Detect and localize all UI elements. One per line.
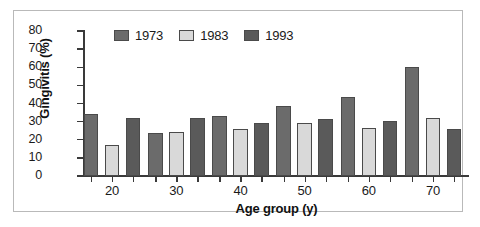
x-axis-tick-label: 50 [285,183,325,198]
x-axis-tick [454,177,455,182]
y-axis-tick [77,85,83,86]
y-axis-tick-label: 0 [2,169,42,182]
x-axis-tick [219,177,220,182]
x-axis-tick [369,177,370,182]
bar-1983-20 [105,145,120,176]
y-axis-tick [77,139,83,140]
x-axis-tick-label: 70 [413,183,453,198]
bar-1993-70 [447,129,462,176]
y-axis-tick [77,48,83,49]
legend-label: 1993 [265,28,293,43]
x-axis-tick-label: 30 [156,183,196,198]
x-axis-tick [284,177,285,182]
x-axis-tick [390,177,391,182]
y-axis-tick [77,175,83,176]
bar-1973-50 [276,106,291,176]
y-axis-tick-label: 10 [2,151,42,164]
bar-1973-40 [212,116,227,176]
x-axis-tick [133,177,134,182]
x-axis-tick [112,177,113,182]
bar-1973-30 [148,133,163,177]
y-axis-tick [77,157,83,158]
bar-1973-20 [84,114,99,176]
x-axis-tick [326,177,327,182]
bar-1993-40 [254,123,269,176]
y-axis-title: Gingivitis (%) [37,19,52,139]
x-axis-tick [91,177,92,182]
y-axis-tick [77,67,83,68]
bar-1983-30 [169,132,184,176]
bar-1983-60 [362,128,377,176]
x-axis-tick [305,177,306,182]
legend-entry-1973: 1973 [114,28,163,43]
y-axis-tick [77,103,83,104]
bar-1993-50 [318,119,333,176]
bar-1993-30 [190,118,205,176]
legend-label: 1983 [200,28,228,43]
x-axis-tick [240,177,241,182]
bar-1993-20 [126,118,141,176]
x-axis-tick [348,177,349,182]
x-axis-tick [176,177,177,182]
x-axis-tick [155,177,156,182]
y-axis-tick [77,30,83,31]
legend-swatch-icon-1983 [179,30,194,41]
x-axis-tick-label: 40 [220,183,260,198]
bar-1983-40 [233,129,248,176]
legend-swatch-icon-1993 [244,30,259,41]
x-axis-title: Age group (y) [84,201,469,216]
legend-swatch-icon-1973 [114,30,129,41]
bar-1993-60 [383,121,398,176]
bar-1983-50 [297,123,312,176]
bar-1983-70 [426,118,441,176]
chart-legend: 197319831993 [114,28,309,43]
legend-label: 1973 [135,28,163,43]
plot-area [84,31,469,176]
legend-entry-1993: 1993 [244,28,293,43]
x-axis-tick [412,177,413,182]
x-axis-tick [433,177,434,182]
bar-1973-70 [405,67,420,176]
x-axis-tick [261,177,262,182]
y-axis-tick [77,121,83,122]
x-axis-tick [197,177,198,182]
legend-entry-1983: 1983 [179,28,228,43]
bar-1973-60 [341,97,356,176]
x-axis-tick-label: 60 [349,183,389,198]
figure-frame: 01020304050607080 203040506070 Gingiviti… [13,10,463,212]
x-axis-tick-label: 20 [92,183,132,198]
